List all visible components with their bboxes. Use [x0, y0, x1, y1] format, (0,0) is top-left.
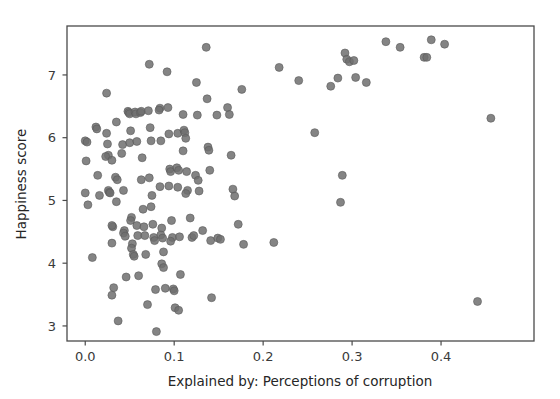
scatter-point — [121, 232, 129, 240]
scatter-point — [202, 43, 210, 51]
scatter-point — [146, 124, 154, 132]
scatter-point — [142, 250, 150, 258]
scatter-point — [88, 254, 96, 262]
scatter-point — [119, 186, 127, 194]
scatter-point — [165, 130, 173, 138]
plot-canvas: 0.00.10.20.30.4 34567 Explained by: Perc… — [0, 0, 560, 399]
scatter-point — [441, 40, 449, 48]
x-tick-label: 0.1 — [164, 349, 185, 364]
scatter-point — [225, 110, 233, 118]
scatter-point — [145, 174, 153, 182]
scatter-point — [161, 284, 169, 292]
scatter-point — [170, 287, 178, 295]
scatter-point — [118, 149, 126, 157]
scatter-point — [127, 127, 135, 135]
scatter-point — [195, 187, 203, 195]
figure-background — [0, 0, 560, 399]
scatter-point — [164, 104, 172, 112]
scatter-point — [396, 43, 404, 51]
scatter-point — [141, 232, 149, 240]
scatter-point — [382, 38, 390, 46]
scatter-point — [112, 198, 120, 206]
y-tick-label: 5 — [48, 193, 56, 208]
scatter-point — [82, 157, 90, 165]
scatter-point — [144, 301, 152, 309]
scatter-point — [84, 201, 92, 209]
scatter-point — [176, 270, 184, 278]
scatter-point — [134, 232, 142, 240]
scatter-point — [207, 237, 215, 245]
scatter-point — [174, 183, 182, 191]
scatter-point — [122, 273, 130, 281]
scatter-point — [182, 190, 190, 198]
scatter-point — [160, 264, 168, 272]
scatter-point — [108, 156, 116, 164]
scatter-point — [427, 36, 435, 44]
y-tick-label: 3 — [48, 319, 56, 334]
scatter-plot-figure: 0.00.10.20.30.4 34567 Explained by: Perc… — [0, 0, 560, 399]
scatter-point — [275, 63, 283, 71]
scatter-point — [130, 252, 138, 260]
scatter-point — [151, 237, 159, 245]
scatter-point — [179, 110, 187, 118]
x-tick-label: 0.0 — [75, 349, 96, 364]
scatter-point — [147, 137, 155, 145]
scatter-point — [179, 147, 187, 155]
scatter-point — [108, 239, 116, 247]
scatter-point — [206, 166, 214, 174]
scatter-point — [227, 151, 235, 159]
scatter-point — [103, 140, 111, 148]
scatter-point — [137, 107, 145, 115]
scatter-point — [350, 57, 358, 65]
scatter-point — [487, 114, 495, 122]
scatter-point — [152, 286, 160, 294]
scatter-point — [112, 118, 120, 126]
scatter-point — [113, 176, 121, 184]
scatter-point — [362, 78, 370, 86]
scatter-point — [95, 191, 103, 199]
scatter-point — [234, 220, 242, 228]
scatter-point — [114, 317, 122, 325]
scatter-point — [352, 73, 360, 81]
scatter-point — [183, 168, 191, 176]
scatter-point — [295, 77, 303, 85]
scatter-point — [93, 125, 101, 133]
scatter-point — [126, 139, 134, 147]
scatter-point — [175, 166, 183, 174]
scatter-point — [423, 53, 431, 61]
scatter-point — [145, 60, 153, 68]
scatter-point — [163, 68, 171, 76]
scatter-point — [208, 294, 216, 302]
scatter-point — [159, 234, 167, 242]
scatter-point — [182, 134, 190, 142]
scatter-point — [240, 240, 248, 248]
scatter-point — [337, 198, 345, 206]
scatter-point — [106, 189, 114, 197]
scatter-point — [338, 171, 346, 179]
scatter-point — [108, 222, 116, 230]
scatter-point — [144, 107, 152, 115]
x-axis-label: Explained by: Perceptions of corruption — [168, 373, 433, 389]
scatter-point — [103, 89, 111, 97]
scatter-point — [81, 189, 89, 197]
scatter-point — [94, 171, 102, 179]
scatter-point — [139, 205, 147, 213]
y-tick-label: 7 — [48, 68, 56, 83]
x-tick-label: 0.3 — [342, 349, 363, 364]
scatter-point — [474, 297, 482, 305]
scatter-point — [167, 237, 175, 245]
scatter-point — [192, 78, 200, 86]
scatter-point — [203, 95, 211, 103]
y-axis-label: Happiness score — [13, 129, 29, 240]
scatter-point — [110, 284, 118, 292]
scatter-point — [176, 233, 184, 241]
scatter-point — [157, 137, 165, 145]
scatter-point — [135, 272, 143, 280]
scatter-point — [133, 137, 141, 145]
scatter-point — [231, 192, 239, 200]
scatter-point — [168, 217, 176, 225]
scatter-point — [152, 328, 160, 336]
scatter-point — [148, 191, 156, 199]
y-tick-label: 4 — [48, 256, 56, 271]
scatter-point — [193, 111, 201, 119]
